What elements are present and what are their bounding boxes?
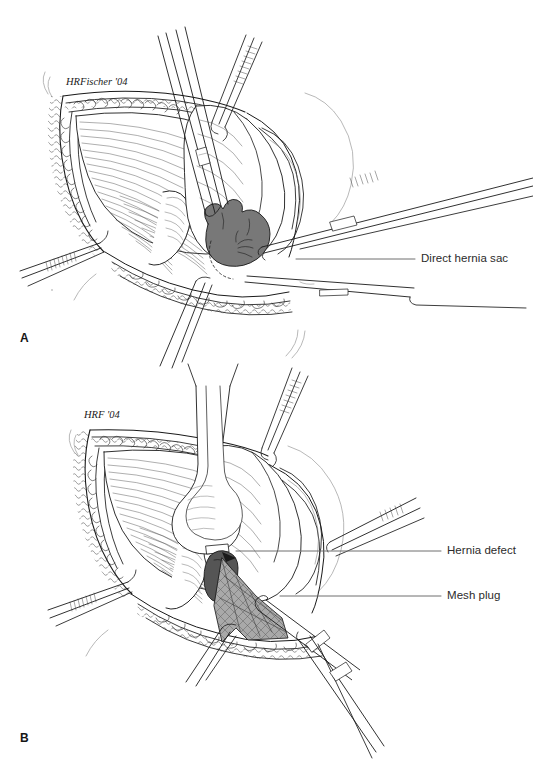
clamp-serrations-upper-right-b <box>280 380 301 413</box>
panel-letter-a: A <box>20 331 29 345</box>
clamp-serrations-right-upper <box>350 171 378 187</box>
label-direct-hernia-sac: Direct hernia sac <box>421 252 508 264</box>
panel-b-illustration: HRF '04 <box>0 360 533 763</box>
label-hernia-defect: Hernia defect <box>447 544 516 556</box>
hemostat-serrations-left <box>46 252 76 271</box>
panel-a-illustration: HRFischer '04 <box>0 0 533 381</box>
panel-b: HRF '04 <box>0 360 533 763</box>
hemostat-left-b <box>48 570 136 626</box>
panel-letter-b: B <box>20 731 29 745</box>
retractor-top-centre-b <box>188 364 238 386</box>
panel-b-line-art: HRF '04 <box>48 364 441 758</box>
clamp-upper-right-b <box>261 368 308 467</box>
label-mesh-plug: Mesh plug <box>447 589 501 601</box>
panel-a: HRFischer '04 <box>0 0 533 381</box>
panel-a-line-art: HRFischer '04 <box>20 27 533 368</box>
surgical-illustration-figure: HRFischer '04 <box>0 0 533 763</box>
signature-b: HRF '04 <box>83 409 121 420</box>
signature-a: HRFischer '04 <box>65 76 128 87</box>
hemostat-left <box>20 231 108 286</box>
